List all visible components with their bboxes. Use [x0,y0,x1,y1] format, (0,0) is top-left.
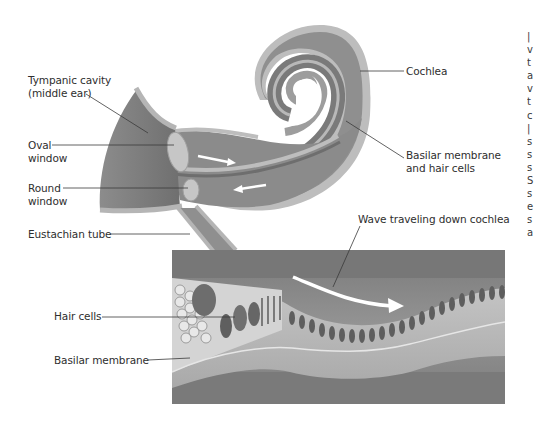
basilar-membrane-label: Basilar membrane [54,354,149,367]
clipped-caption-char: t [527,56,535,69]
clipped-caption-char: v [527,43,535,56]
clipped-caption-char: t [527,95,535,108]
clipped-caption-char: s [527,148,535,161]
eustachian-tube-label: Eustachian tube [28,228,111,241]
clipped-caption-char: s [527,161,535,174]
clipped-caption-char: s [527,135,535,148]
basilar-membrane-hair-cells-label-line1: Basilar membrane [406,149,501,162]
clipped-caption-char: s [527,213,535,226]
clipped-caption-char: a [527,69,535,82]
tympanic-cavity-label-line2: (middle ear) [28,87,111,100]
oval-window-label-line1: Oval [28,139,67,152]
clipped-caption-char: a [527,226,535,239]
hair-cells-label: Hair cells [54,310,101,323]
clipped-caption-char: e [527,200,535,213]
clipped-caption-char: v [527,82,535,95]
round-window-label: Round window [28,182,67,208]
clipped-caption-char: c [527,109,535,122]
clipped-caption-char: s [527,187,535,200]
basilar-membrane-hair-cells-label-line2: and hair cells [406,162,501,175]
round-window-shape [183,179,199,201]
clipped-caption-char: S [527,174,535,187]
tympanic-cavity-label-line1: Tympanic cavity [28,74,111,87]
eustachian-tube [178,206,236,252]
clipped-caption-char: | [527,30,535,43]
clipped-caption-text: |vtavtc|sssSsesa [527,30,535,240]
cochlea-label: Cochlea [406,65,447,78]
oval-window-label: Oval window [28,139,67,165]
round-window-label-line1: Round [28,182,67,195]
tympanic-cavity-label: Tympanic cavity (middle ear) [28,74,111,100]
oval-window-label-line2: window [28,152,67,165]
clipped-caption-char: | [527,122,535,135]
round-window-label-line2: window [28,195,67,208]
magnified-panel [172,250,505,404]
wave-label: Wave traveling down cochlea [358,213,510,226]
basilar-membrane-hair-cells-label: Basilar membrane and hair cells [406,149,501,175]
